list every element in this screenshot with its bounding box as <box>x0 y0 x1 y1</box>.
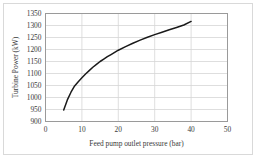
x-tick-label-20: 20 <box>115 125 123 134</box>
x-tick-label-10: 10 <box>78 125 86 134</box>
y-tick-label-1050: 1050 <box>27 81 42 90</box>
y-tick-label-1100: 1100 <box>27 69 42 78</box>
x-tick-label-0: 0 <box>44 125 48 134</box>
y-tick-label-1200: 1200 <box>27 45 42 54</box>
turbine-power-vs-feed-pump-pressure-chart: 90095010001050110011501200125013001350 0… <box>0 0 259 163</box>
x-axis-title: Feed pump outlet pressure (bar) <box>89 139 184 148</box>
y-tick-label-1150: 1150 <box>27 57 42 66</box>
plot-area-background <box>46 14 228 122</box>
x-axis-tick-labels: 01020304050 <box>44 125 232 134</box>
y-tick-label-950: 950 <box>30 105 41 114</box>
x-tick-label-50: 50 <box>224 125 232 134</box>
y-tick-label-900: 900 <box>30 117 41 126</box>
x-tick-label-40: 40 <box>187 125 195 134</box>
y-tick-label-1350: 1350 <box>27 9 42 18</box>
y-tick-label-1250: 1250 <box>27 33 42 42</box>
y-tick-label-1000: 1000 <box>27 93 42 102</box>
y-tick-label-1300: 1300 <box>27 21 42 30</box>
y-axis-tick-labels: 90095010001050110011501200125013001350 <box>27 9 42 126</box>
y-axis-title: Turbine Power (kW) <box>11 36 20 98</box>
x-tick-label-30: 30 <box>151 125 159 134</box>
figure-container: 90095010001050110011501200125013001350 0… <box>0 0 259 163</box>
